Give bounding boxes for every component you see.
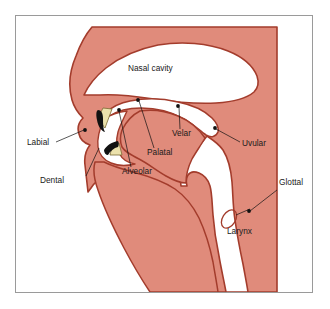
anchor-dot-alveolar: [117, 108, 121, 112]
label-larynx: Larynx: [227, 226, 253, 236]
vocal-tract-diagram: Nasal cavity Labial Dental Alveolar Pala…: [0, 0, 330, 309]
label-dental: Dental: [40, 175, 64, 185]
anchor-dot-velar: [176, 104, 180, 108]
label-alveolar: Alveolar: [122, 166, 152, 176]
label-uvular: Uvular: [242, 138, 266, 148]
label-palatal: Palatal: [147, 147, 173, 157]
figure-canvas: Nasal cavity Labial Dental Alveolar Pala…: [0, 0, 330, 309]
label-labial: Labial: [27, 137, 49, 147]
anchor-dot-uvular: [213, 126, 217, 130]
label-nasal-cavity: Nasal cavity: [128, 63, 174, 73]
label-velar: Velar: [172, 128, 191, 138]
anchor-dot-glottal: [247, 209, 251, 213]
anchor-dot-labial: [83, 128, 87, 132]
anchor-dot-palatal: [136, 98, 140, 102]
label-glottal: Glottal: [279, 177, 303, 187]
